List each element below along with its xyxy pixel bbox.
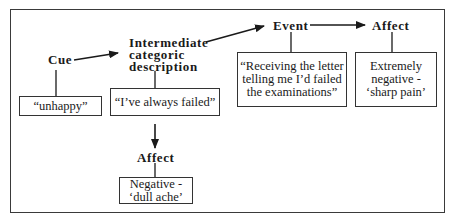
cue-example-text: “unhappy”: [33, 100, 87, 113]
cue-label: Cue: [48, 53, 72, 66]
arrow-intermediate-to-event: [206, 26, 264, 42]
affect-top-label: Affect: [372, 19, 410, 32]
cue-example-box: “unhappy”: [19, 96, 102, 116]
arrow-cue-to-intermediate: [74, 53, 118, 60]
affect-bottom-example-box: Negative - ‘dull ache’: [119, 177, 193, 204]
event-label: Event: [273, 19, 309, 32]
affect-bottom-example-line2: ‘dull ache’: [129, 191, 183, 204]
affect-top-example-line3: ‘sharp pain’: [366, 86, 426, 99]
intermediate-example-text: “I’ve always failed”: [115, 96, 216, 109]
affect-bottom-label: Affect: [137, 151, 175, 164]
intermediate-label-line3: description: [129, 60, 198, 73]
event-example-line3: the examinations”: [247, 86, 338, 99]
event-example-box: “Receiving the letter telling me I’d fai…: [237, 52, 347, 107]
affect-top-example-box: Extremely negative - ‘sharp pain’: [355, 52, 437, 107]
intermediate-example-box: “I’ve always failed”: [110, 88, 220, 116]
affect-bottom-example-line1: Negative -: [130, 178, 182, 191]
